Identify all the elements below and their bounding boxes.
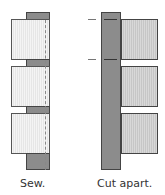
cut-square-1 — [121, 19, 158, 60]
cut-square-2 — [121, 66, 158, 107]
sew-caption: Sew. — [20, 177, 45, 190]
seam-line — [45, 20, 46, 170]
cut-line-1-strip — [104, 19, 117, 20]
cut-line-2-strip — [104, 59, 117, 60]
cut-line-2 — [88, 59, 96, 60]
cut-caption: Cut apart. — [97, 177, 152, 190]
strip — [101, 12, 121, 170]
cut-line-1 — [88, 19, 96, 20]
strip-band-4 — [26, 153, 50, 170]
cut-square-3 — [121, 113, 158, 154]
